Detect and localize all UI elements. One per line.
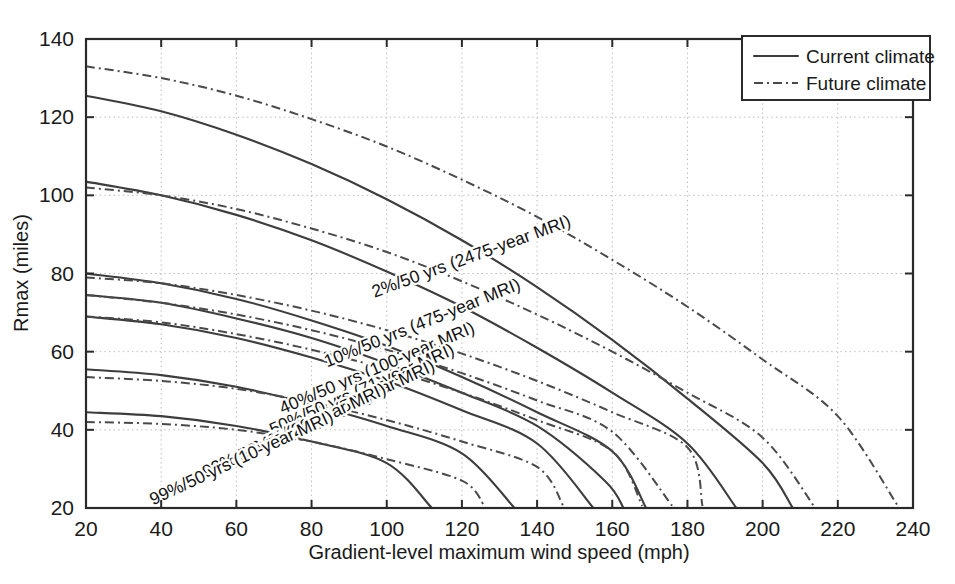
- x-tick-label: 180: [670, 517, 705, 540]
- y-tick-label: 20: [51, 496, 74, 519]
- x-tick-label: 240: [895, 517, 930, 540]
- y-tick-label: 100: [39, 183, 74, 206]
- x-tick-label: 220: [820, 517, 855, 540]
- x-axis-title: Gradient-level maximum wind speed (mph): [308, 541, 689, 563]
- y-tick-label: 140: [39, 27, 74, 50]
- x-tick-label: 60: [225, 517, 248, 540]
- chart-legend[interactable]: Current climateFuture climate: [742, 36, 935, 100]
- y-tick-label: 40: [51, 418, 74, 441]
- x-tick-label: 80: [300, 517, 323, 540]
- curve-annotations: 2%/50 yrs (2475-year MRI)2%/50 yrs (2475…: [146, 211, 573, 509]
- plot-border: [86, 39, 913, 508]
- x-tick-label: 200: [745, 517, 780, 540]
- y-tick-label: 80: [51, 262, 74, 285]
- axes: [86, 39, 913, 508]
- x-tick-label: 100: [369, 517, 404, 540]
- curve-annotation: 2%/50 yrs (2475-year MRI)2%/50 yrs (2475…: [369, 211, 573, 302]
- curve-annotation: 99%/50 yrs (10-year MRI)99%/50 yrs (10-y…: [146, 406, 336, 509]
- gridlines: [86, 39, 913, 508]
- x-tick-label: 160: [595, 517, 630, 540]
- y-axis-title: Rmax (miles): [10, 214, 32, 332]
- axis-tick-labels: 2040608010012014016018020022024020406080…: [39, 27, 931, 540]
- y-tick-label: 60: [51, 340, 74, 363]
- x-tick-label: 140: [520, 517, 555, 540]
- x-tick-label: 40: [150, 517, 173, 540]
- legend-item-label[interactable]: Current climate: [806, 46, 935, 67]
- curve-annotation-text: 99%/50 yrs (10-year MRI): [146, 406, 336, 509]
- x-tick-label: 120: [444, 517, 479, 540]
- legend-item-label[interactable]: Future climate: [806, 73, 926, 94]
- chart-canvas: 2%/50 yrs (2475-year MRI)2%/50 yrs (2475…: [0, 0, 955, 584]
- figure-container: 2%/50 yrs (2475-year MRI)2%/50 yrs (2475…: [0, 0, 955, 584]
- curve-annotation-text: 2%/50 yrs (2475-year MRI): [369, 211, 573, 302]
- y-tick-label: 120: [39, 105, 74, 128]
- x-tick-label: 20: [74, 517, 97, 540]
